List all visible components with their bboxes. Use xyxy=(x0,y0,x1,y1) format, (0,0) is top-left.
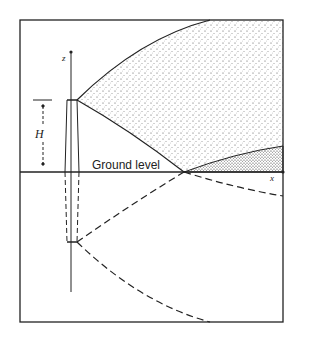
z-axis-label: z xyxy=(62,53,66,63)
plume xyxy=(77,20,283,172)
image-plume xyxy=(77,172,283,322)
stack xyxy=(65,100,79,172)
image-stack xyxy=(65,172,79,242)
height-label: H xyxy=(35,127,44,142)
x-axis-label: x xyxy=(270,173,274,183)
ground-level-label: Ground level xyxy=(92,158,160,172)
